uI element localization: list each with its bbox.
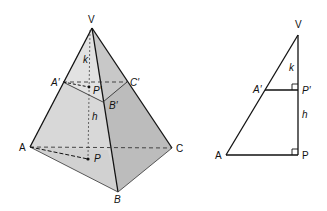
label-h: h xyxy=(302,109,308,120)
label-V: V xyxy=(88,14,95,25)
label-A: A xyxy=(215,150,222,161)
label-C: C xyxy=(176,143,183,154)
label-A: A xyxy=(19,142,26,153)
label-P-prime: P′ xyxy=(302,85,312,96)
point-Pprime xyxy=(88,86,91,89)
figure-canvas: V k A′ C′ P′ B′ h A P C B V k A′ P′ h A … xyxy=(0,0,327,211)
label-h: h xyxy=(92,111,98,122)
label-P: P xyxy=(94,153,101,164)
label-k: k xyxy=(289,62,295,73)
label-V: V xyxy=(295,19,302,30)
point-P xyxy=(86,157,89,160)
label-P-prime: P′ xyxy=(93,85,103,96)
label-B: B xyxy=(114,194,121,205)
right-angle-Pprime-icon xyxy=(292,84,298,90)
side-VA xyxy=(226,35,298,155)
label-C-prime: C′ xyxy=(130,77,140,88)
label-A-prime: A′ xyxy=(252,84,263,95)
triangle-diagram: V k A′ P′ h A P xyxy=(215,19,312,161)
label-B-prime: B′ xyxy=(109,100,119,111)
right-angle-P-icon xyxy=(292,149,298,155)
label-A-prime: A′ xyxy=(50,77,61,88)
pyramid-diagram: V k A′ C′ P′ B′ h A P C B xyxy=(19,14,183,205)
label-P: P xyxy=(302,150,309,161)
